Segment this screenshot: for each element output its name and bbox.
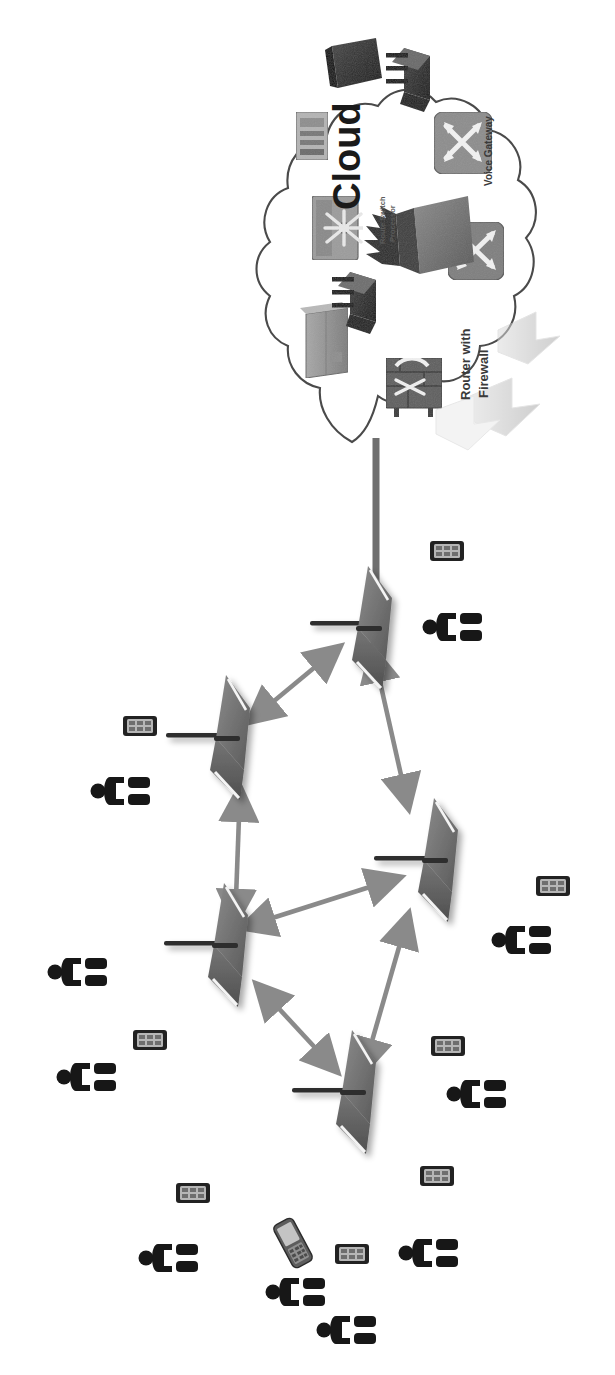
mesh-node-ap-2[interactable] xyxy=(166,675,250,800)
user-icon-person-4 xyxy=(492,926,552,954)
user-icon-person-7 xyxy=(399,1239,459,1267)
smartphone-icon-device-2 xyxy=(123,716,157,736)
cloud-icon-network-switch xyxy=(296,112,328,160)
user-icon-person-1 xyxy=(423,613,483,641)
mesh-node-ap-3[interactable] xyxy=(374,798,458,922)
cloud-icon-server-block xyxy=(300,302,348,378)
cloud-title-text: Cloud xyxy=(326,102,368,210)
user-icon-person-8 xyxy=(139,1244,199,1272)
voice-gateway-label-text: Voice Gateway xyxy=(483,116,494,186)
mesh-link-ap1-ap3 xyxy=(378,673,408,806)
rwf-label-line1: Router with xyxy=(458,328,473,400)
mesh-link-ap5-ap3 xyxy=(370,916,408,1048)
mesh-node-ap-4[interactable] xyxy=(164,883,248,1007)
smartphone-icon-device-8 xyxy=(335,1244,369,1264)
rsp-label-line1: Route Switch xyxy=(378,196,387,244)
user-icon-person-3 xyxy=(48,958,108,986)
cloud-title: Cloud xyxy=(326,102,368,210)
smartphone-icon-device-7 xyxy=(176,1183,210,1203)
mesh-node-ap-1[interactable] xyxy=(310,566,392,690)
smartphone-icon-device-5 xyxy=(431,1036,465,1056)
user-icon-person-10 xyxy=(317,1316,377,1344)
mesh-links xyxy=(236,648,408,1053)
cloud-icon-firewall xyxy=(386,358,442,417)
user-icon-person-5 xyxy=(57,1063,117,1091)
mesh-link-ap4-ap2 xyxy=(236,790,240,898)
cloud-icon-server-tower xyxy=(325,38,382,88)
user-icon-person-2 xyxy=(91,777,151,805)
user-icon-person-6 xyxy=(447,1080,507,1108)
user-icon-person-9 xyxy=(266,1278,326,1306)
mesh-link-ap5-ap4 xyxy=(258,986,320,1053)
smartphone-icon-device-6 xyxy=(420,1166,454,1186)
mesh-link-ap2-ap1 xyxy=(268,648,338,706)
mesh-node-ap-5[interactable] xyxy=(292,1030,376,1154)
rsp-label-line2: Processor xyxy=(388,205,397,242)
diagram-svg: Cloud Voice Gateway Route Switch Process… xyxy=(0,0,615,1375)
rwf-label-line2: Firewall xyxy=(476,350,491,398)
smartphone-icon-device-4 xyxy=(133,1030,167,1050)
network-diagram-canvas: Cloud Voice Gateway Route Switch Process… xyxy=(0,0,615,1375)
client-devices xyxy=(123,541,570,1269)
smartphone-icon-device-1 xyxy=(430,541,464,561)
voice-gateway-label: Voice Gateway xyxy=(483,116,494,186)
mesh-link-ap4-ap3 xyxy=(266,878,398,920)
smartphone-icon-device-3 xyxy=(536,876,570,896)
flip-phone-icon-device-9 xyxy=(272,1217,314,1270)
